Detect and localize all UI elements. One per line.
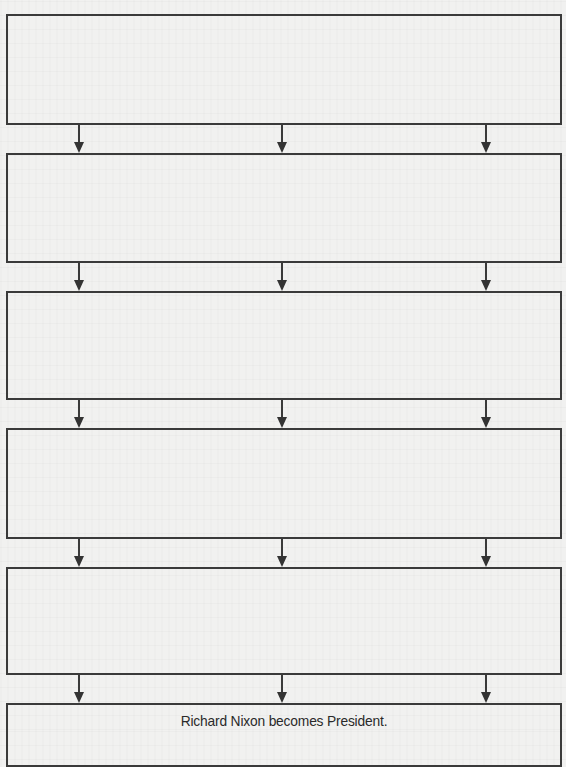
arrowhead-icon bbox=[481, 417, 491, 428]
arrow-4-5-left bbox=[73, 537, 85, 567]
flow-box-2 bbox=[6, 153, 562, 263]
arrow-1-2-right bbox=[480, 123, 492, 153]
flow-box-3 bbox=[6, 291, 562, 400]
flow-box-4 bbox=[6, 428, 562, 539]
arrow-2-3-right bbox=[480, 261, 492, 291]
arrowhead-icon bbox=[74, 280, 84, 291]
arrowhead-icon bbox=[277, 692, 287, 703]
flow-box-outcome: Richard Nixon becomes President. bbox=[6, 703, 562, 767]
arrow-5-6-center bbox=[276, 673, 288, 703]
arrow-5-6-left bbox=[73, 673, 85, 703]
arrowhead-icon bbox=[277, 280, 287, 291]
arrow-1-2-left bbox=[73, 123, 85, 153]
arrowhead-icon bbox=[481, 280, 491, 291]
arrow-4-5-right bbox=[480, 537, 492, 567]
arrowhead-icon bbox=[277, 556, 287, 567]
arrowhead-icon bbox=[74, 556, 84, 567]
outcome-label: Richard Nixon becomes President. bbox=[30, 712, 538, 729]
arrowhead-icon bbox=[481, 142, 491, 153]
arrow-3-4-center bbox=[276, 398, 288, 428]
arrowhead-icon bbox=[74, 142, 84, 153]
arrow-5-6-right bbox=[480, 673, 492, 703]
arrowhead-icon bbox=[277, 142, 287, 153]
arrow-4-5-center bbox=[276, 537, 288, 567]
arrowhead-icon bbox=[481, 692, 491, 703]
arrowhead-icon bbox=[74, 692, 84, 703]
arrow-3-4-left bbox=[73, 398, 85, 428]
arrow-2-3-left bbox=[73, 261, 85, 291]
flow-box-1 bbox=[6, 14, 562, 125]
arrow-1-2-center bbox=[276, 123, 288, 153]
arrow-2-3-center bbox=[276, 261, 288, 291]
flow-box-5 bbox=[6, 567, 562, 675]
arrowhead-icon bbox=[74, 417, 84, 428]
arrowhead-icon bbox=[481, 556, 491, 567]
arrow-3-4-right bbox=[480, 398, 492, 428]
arrowhead-icon bbox=[277, 417, 287, 428]
